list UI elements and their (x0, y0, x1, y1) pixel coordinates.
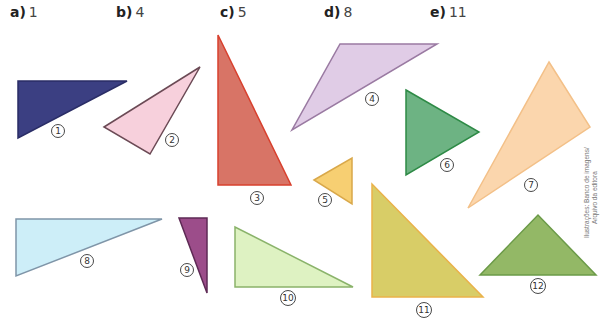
triangle-number-label: 3 (254, 193, 260, 203)
image-credit: Ilustrações: Banco de imagens/ Arquivo d… (583, 147, 599, 238)
triangle-shape (480, 215, 596, 275)
triangle-shape (372, 184, 483, 297)
triangle-number-label: 4 (369, 94, 375, 104)
triangle-11: 11 (372, 184, 483, 318)
triangle-number-label: 8 (84, 256, 90, 266)
triangle-number-label: 10 (282, 293, 294, 303)
triangle-number-label: 11 (418, 305, 429, 315)
triangle-number-label: 5 (322, 195, 328, 205)
triangle-10: 10 (235, 227, 353, 306)
triangle-6: 6 (406, 90, 479, 175)
triangle-3: 3 (218, 35, 291, 205)
triangle-5: 5 (314, 158, 352, 207)
triangle-number-label: 6 (444, 160, 450, 170)
triangle-8: 8 (16, 219, 162, 276)
triangle-number-label: 1 (55, 126, 61, 136)
triangle-shape (218, 35, 291, 185)
triangle-shape (235, 227, 353, 287)
triangle-2: 2 (104, 67, 200, 154)
triangle-shape (179, 218, 207, 293)
triangle-9: 9 (179, 218, 207, 293)
triangle-number-label: 2 (169, 135, 175, 145)
triangle-number-label: 7 (528, 180, 534, 190)
credit-line-2: Arquivo da editora (591, 147, 599, 238)
triangle-number-label: 12 (532, 281, 543, 291)
triangles-figure: 123456789101112 (0, 0, 610, 324)
triangle-7: 7 (468, 62, 590, 208)
triangle-shape (104, 67, 200, 154)
triangle-12: 12 (480, 215, 596, 294)
credit-line-1: Ilustrações: Banco de imagens/ (583, 147, 591, 238)
triangle-number-label: 9 (184, 265, 190, 275)
